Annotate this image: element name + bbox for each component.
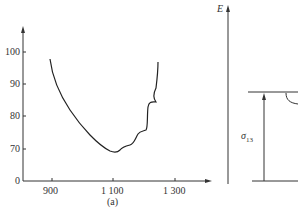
y-tick-0: 0: [0, 175, 20, 186]
panel-a-axes: [21, 26, 212, 183]
x-axis-arrow-icon: [205, 179, 212, 183]
y-tick-70: 70: [0, 143, 20, 154]
y-tick-90: 90: [0, 78, 20, 89]
data-curve: [50, 59, 158, 152]
energy-diagram: [226, 5, 298, 184]
transition-label: σ13: [241, 130, 253, 144]
panel-a-label: (a): [107, 196, 118, 207]
figure-canvas: [0, 0, 298, 209]
energy-axis-arrow-icon: [226, 5, 230, 12]
y-axis-arrow-icon: [21, 26, 25, 33]
x-tick-1300: 1 300: [163, 185, 186, 196]
y-tick-100: 100: [0, 46, 20, 57]
transition-subscript: 13: [246, 136, 253, 144]
transition-arrow-head-icon: [262, 93, 266, 100]
decay-curve: [286, 93, 298, 104]
y-tick-80: 80: [0, 110, 20, 121]
energy-axis-label: E: [217, 3, 223, 14]
x-tick-1100: 1 100: [101, 185, 124, 196]
x-tick-900: 900: [43, 185, 58, 196]
